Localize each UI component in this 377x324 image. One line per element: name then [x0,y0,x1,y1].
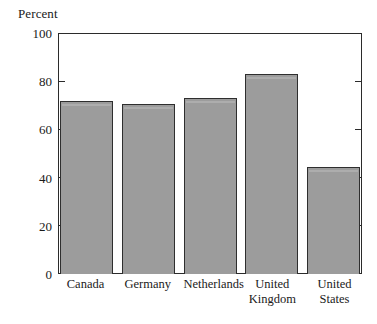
x-tick-label: Canada [59,277,112,306]
y-tick-label: 60 [6,123,52,136]
bar [307,167,360,274]
bar [122,104,175,274]
y-axis-tick-labels: 020406080100 [0,33,52,274]
y-tick-label: 100 [6,27,52,40]
bar [184,98,237,274]
bar [60,101,113,274]
y-tick-label: 20 [6,219,52,232]
x-tick-label: UnitedKingdom [246,277,299,306]
y-tick-label: 80 [6,75,52,88]
y-tick-label: 0 [6,268,52,281]
x-axis-tick-labels: CanadaGermanyNetherlandsUnitedKingdomUni… [58,277,362,306]
y-axis-title: Percent [18,6,58,21]
x-tick-label: Germany [121,277,174,306]
x-tick-label-line1: United [255,277,289,291]
x-tick-label-line1: Germany [124,277,171,291]
x-tick-label-line2: Kingdom [246,292,299,307]
x-tick-label-line1: Canada [67,277,104,291]
x-tick-label-line2: States [308,292,361,307]
x-tick-label-line1: Netherlands [184,277,244,291]
y-tick-label: 40 [6,171,52,184]
x-tick-label-line1: United [317,277,351,291]
bar-chart-figure: Percent 020406080100 CanadaGermanyNether… [0,0,377,324]
x-tick-label: UnitedStates [308,277,361,306]
x-tick-label: Netherlands [184,277,237,306]
bar [245,74,298,274]
bars-container [59,34,361,274]
